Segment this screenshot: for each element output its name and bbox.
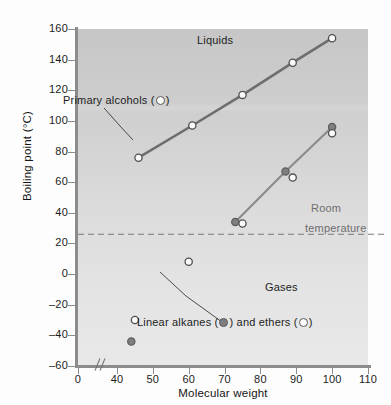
region-label-gases: Gases xyxy=(265,281,298,293)
series-label-primary-alcohols: Primary alcohols () xyxy=(63,94,170,106)
region-label-liquids: Liquids xyxy=(197,34,233,46)
room-temperature-label-line1: Room xyxy=(311,202,341,214)
data-point-filled xyxy=(128,338,135,345)
series-lines xyxy=(139,38,333,222)
data-point-open xyxy=(239,220,246,227)
data-point-open xyxy=(239,91,246,98)
series-label-alcohols-text-end: ) xyxy=(166,94,170,106)
data-point-open xyxy=(189,122,196,129)
series-label-alkanes-text: Linear alkanes ( xyxy=(137,316,218,328)
leader-line-alkanes xyxy=(160,272,222,322)
series-label-alkanes-text-mid: ) and ethers ( xyxy=(229,316,297,328)
room-temperature-label-line2: temperature xyxy=(305,222,367,234)
leader-line-alcohols xyxy=(104,108,133,140)
data-point-open xyxy=(329,130,336,137)
data-point-open xyxy=(135,154,142,161)
open-circle-icon xyxy=(299,318,308,327)
data-point-filled xyxy=(232,218,239,225)
data-point-open xyxy=(185,258,192,265)
open-circle-icon xyxy=(156,96,165,105)
data-point-open xyxy=(289,59,296,66)
data-point-filled xyxy=(282,168,289,175)
filled-circle-icon xyxy=(219,318,228,327)
data-point-open xyxy=(289,174,296,181)
series-label-alkanes-text-end: ) xyxy=(309,316,313,328)
boiling-point-chart-figure: –60–40–20020406080100120140160 040506070… xyxy=(0,0,391,405)
series-label-alkanes-ethers: Linear alkanes () and ethers () xyxy=(137,316,313,328)
data-point-open xyxy=(329,35,336,42)
series-markers xyxy=(128,35,336,346)
series-label-alcohols-text: Primary alcohols ( xyxy=(63,94,155,106)
annotation-leader-lines xyxy=(104,108,222,322)
